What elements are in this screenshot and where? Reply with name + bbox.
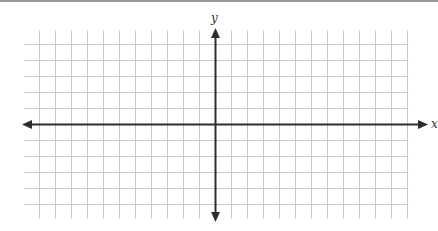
y-axis-down-arrow-icon <box>211 212 220 222</box>
y-axis-up-arrow-icon <box>211 28 220 38</box>
x-axis-left-arrow-icon <box>22 120 32 129</box>
y-axis-label: y <box>211 12 218 24</box>
axes <box>22 28 428 222</box>
x-axis-label: x <box>431 118 438 130</box>
x-axis-right-arrow-icon <box>418 120 428 129</box>
coordinate-plane <box>0 0 438 231</box>
